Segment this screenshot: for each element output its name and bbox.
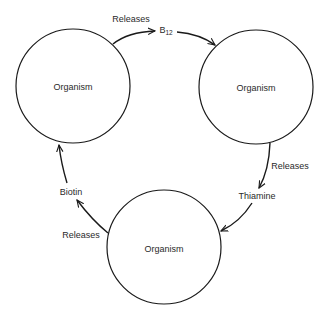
product-thiamine-label: Thiamine: [238, 192, 275, 201]
product-b12-label: B12: [159, 26, 172, 37]
organism-bottom-label: Organism: [144, 245, 183, 254]
arrow-thiamine-to-organism: [221, 203, 252, 231]
nutrient-cycle-diagram: [0, 0, 323, 317]
arrow-biotin-to-organism: [59, 145, 67, 183]
arrow-releases-biotin: [77, 200, 108, 233]
b12-subscript-text: 12: [165, 29, 172, 36]
arrow-releases-b12: [113, 31, 155, 44]
arrow-releases-thiamine: [259, 143, 270, 188]
releases-label-right: Releases: [271, 162, 309, 171]
arrow-b12-to-organism: [177, 32, 215, 45]
organism-top-left-label: Organism: [53, 83, 92, 92]
releases-label-top: Releases: [112, 15, 150, 24]
releases-label-left: Releases: [62, 231, 100, 240]
organism-top-right-label: Organism: [236, 84, 275, 93]
product-biotin-label: Biotin: [60, 188, 83, 197]
